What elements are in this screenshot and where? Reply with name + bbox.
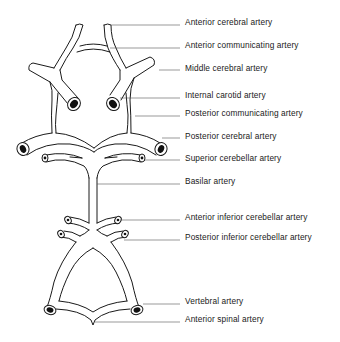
vertebral-arteries xyxy=(43,230,144,325)
label-anterior-spinal-artery: Anterior spinal artery xyxy=(185,314,264,324)
internal-carotid-arteries xyxy=(50,70,134,113)
leader-lines xyxy=(95,25,180,322)
posterior-cerebral-arteries xyxy=(15,133,169,157)
label-superior-cerebellar-artery: Superior cerebellar artery xyxy=(185,153,281,163)
inferior-cerebellar-arteries xyxy=(57,215,130,242)
label-internal-carotid-artery: Internal carotid artery xyxy=(185,90,266,100)
label-anterior-cerebral-artery: Anterior cerebral artery xyxy=(185,17,272,27)
basilar-artery xyxy=(89,178,97,223)
label-posterior-cerebral-artery: Posterior cerebral artery xyxy=(185,131,277,141)
anterior-cerebral-arteries xyxy=(54,24,126,70)
label-posterior-communicating-artery: Posterior communicating artery xyxy=(185,108,303,118)
superior-cerebellar-arteries xyxy=(42,154,145,178)
posterior-communicating-arteries xyxy=(50,78,134,133)
label-posterior-inferior-cerebellar-artery: Posterior inferior cerebellar artery xyxy=(185,232,312,242)
circle-of-willis-diagram xyxy=(0,0,340,342)
label-basilar-artery: Basilar artery xyxy=(185,176,235,186)
label-vertebral-artery: Vertebral artery xyxy=(185,296,243,306)
label-anterior-inferior-cerebellar-artery: Anterior inferior cerebellar artery xyxy=(185,212,307,222)
label-middle-cerebral-artery: Middle cerebral artery xyxy=(185,63,267,73)
middle-cerebral-arteries xyxy=(29,57,155,82)
label-anterior-communicating-artery: Anterior communicating artery xyxy=(185,40,299,50)
